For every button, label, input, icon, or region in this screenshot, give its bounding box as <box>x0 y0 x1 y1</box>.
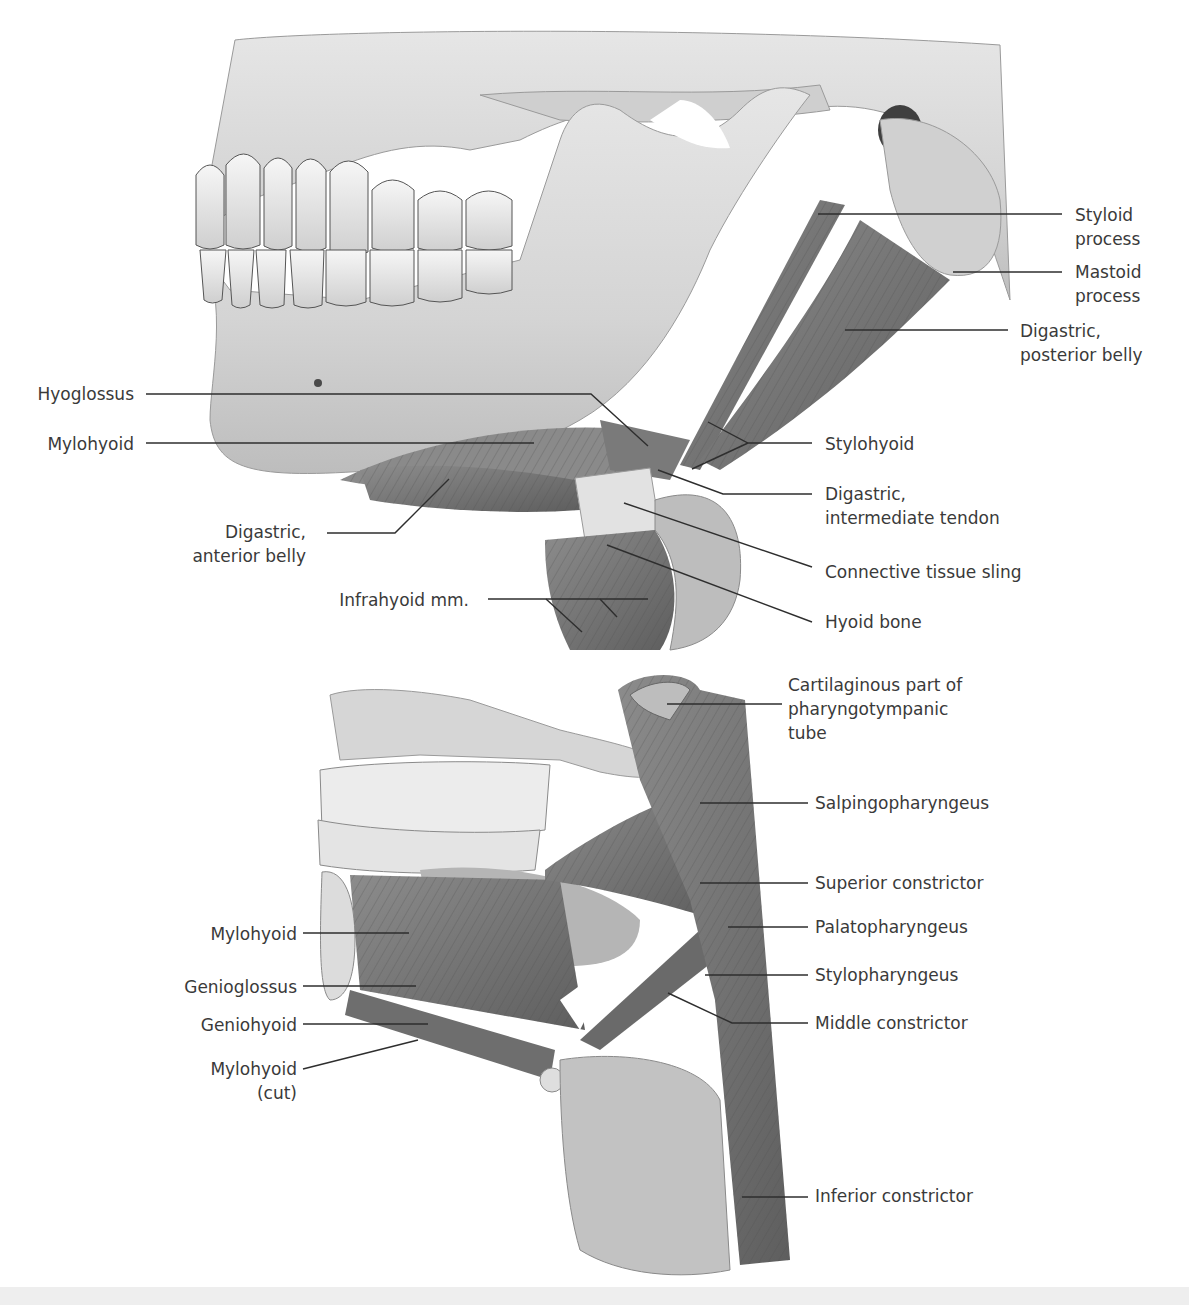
label-salpingopharyngeus: Salpingopharyngeus <box>815 791 989 815</box>
label-genioglossus: Genioglossus <box>184 975 297 999</box>
label-cartilaginous-part-pharyngotympanic-tube: Cartilaginous part of pharyngotympanic t… <box>788 673 962 745</box>
label-line: Geniohyoid <box>201 1013 297 1037</box>
label-infrahyoid-mm: Infrahyoid mm. <box>339 588 469 612</box>
label-line: Palatopharyngeus <box>815 915 968 939</box>
label-line: Infrahyoid mm. <box>339 588 469 612</box>
label-line: anterior belly <box>192 544 306 568</box>
label-line: Digastric, <box>1020 319 1142 343</box>
label-digastric-posterior-belly: Digastric, posterior belly <box>1020 319 1142 367</box>
label-line: Digastric, <box>825 482 1000 506</box>
label-line: process <box>1075 284 1142 308</box>
label-line: Connective tissue sling <box>825 560 1022 584</box>
larynx <box>560 1056 730 1274</box>
label-line: intermediate tendon <box>825 506 1000 530</box>
label-line: Inferior constrictor <box>815 1184 973 1208</box>
label-inferior-constrictor: Inferior constrictor <box>815 1184 973 1208</box>
mandible-symphysis <box>320 872 355 1000</box>
label-line: Salpingopharyngeus <box>815 791 989 815</box>
leader-mylohyoid-cut <box>303 1040 418 1069</box>
label-hyoglossus: Hyoglossus <box>37 382 134 406</box>
label-connective-tissue-sling: Connective tissue sling <box>825 560 1022 584</box>
label-line: Superior constrictor <box>815 871 983 895</box>
label-line: Styloid <box>1075 203 1140 227</box>
illustration-canvas <box>0 0 1189 1305</box>
label-line: Mylohyoid <box>210 922 297 946</box>
label-digastric-anterior-belly: Digastric, anterior belly <box>192 520 306 568</box>
label-mylohyoid-cut: Mylohyoid (cut) <box>210 1057 297 1105</box>
label-middle-constrictor: Middle constrictor <box>815 1011 968 1035</box>
upper-teeth <box>196 154 512 256</box>
label-line: Mastoid <box>1075 260 1142 284</box>
label-stylohyoid: Stylohyoid <box>825 432 914 456</box>
label-palatopharyngeus: Palatopharyngeus <box>815 915 968 939</box>
label-stylopharyngeus: Stylopharyngeus <box>815 963 958 987</box>
label-hyoid-bone: Hyoid bone <box>825 610 922 634</box>
top-illustration <box>196 31 1010 650</box>
label-line: tube <box>788 721 962 745</box>
label-digastric-intermediate-tendon: Digastric, intermediate tendon <box>825 482 1000 530</box>
label-line: Hyoid bone <box>825 610 922 634</box>
anatomy-figure: Styloid process Mastoid process Digastri… <box>0 0 1189 1305</box>
label-line: Digastric, <box>192 520 306 544</box>
label-line: Middle constrictor <box>815 1011 968 1035</box>
bottom-band <box>0 1287 1189 1305</box>
label-mylohyoid-bottom: Mylohyoid <box>210 922 297 946</box>
label-line: Cartilaginous part of <box>788 673 962 697</box>
leader-digastric-intermediate-tendon <box>658 470 812 494</box>
label-line: Mylohyoid <box>210 1057 297 1081</box>
label-line: Hyoglossus <box>37 382 134 406</box>
label-line: pharyngotympanic <box>788 697 962 721</box>
label-styloid-process: Styloid process <box>1075 203 1140 251</box>
label-line: Genioglossus <box>184 975 297 999</box>
label-mastoid-process: Mastoid process <box>1075 260 1142 308</box>
label-line: (cut) <box>210 1081 297 1105</box>
label-line: posterior belly <box>1020 343 1142 367</box>
label-superior-constrictor: Superior constrictor <box>815 871 983 895</box>
label-line: process <box>1075 227 1140 251</box>
label-line: Mylohyoid <box>47 432 134 456</box>
connective-tissue-sling-shape <box>575 468 660 540</box>
label-line: Stylopharyngeus <box>815 963 958 987</box>
label-line: Stylohyoid <box>825 432 914 456</box>
label-geniohyoid: Geniohyoid <box>201 1013 297 1037</box>
label-mylohyoid-top: Mylohyoid <box>47 432 134 456</box>
